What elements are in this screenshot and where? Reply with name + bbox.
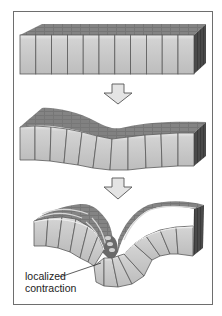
cell-row [20,35,194,74]
cell [161,133,178,167]
annotation-line-2: contraction [25,282,77,294]
cell [162,35,178,74]
cell [36,35,52,74]
cell [20,35,36,74]
annotation-line-1: localized [25,270,66,282]
cell [176,226,193,256]
cell [52,35,68,74]
cell [178,133,194,166]
cell [145,134,162,168]
cell [20,126,35,160]
cell [99,35,115,74]
cell [131,35,147,74]
cell [83,35,99,74]
cell [146,35,162,74]
sheet-side-face [193,205,204,256]
cell [110,137,128,170]
cell [128,135,146,170]
stage-1-flat-sheet [20,24,206,74]
sheet-top-face [20,24,206,35]
cell [67,35,83,74]
cell [178,35,194,74]
cell [115,35,131,74]
epithelial-folding-diagram: localized contraction [0,0,222,316]
cell [35,126,51,161]
